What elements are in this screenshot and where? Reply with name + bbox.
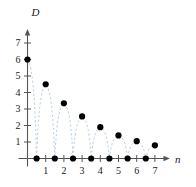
y-axis-tick-label: 4: [16, 87, 21, 98]
y-axis-tick-label: 7: [16, 37, 21, 48]
y-axis-label: D: [31, 6, 40, 18]
data-point: [43, 81, 49, 87]
data-point: [34, 155, 40, 161]
x-axis-tick-label: 7: [152, 165, 157, 176]
data-point: [70, 155, 76, 161]
x-axis-label: n: [175, 153, 181, 165]
x-axis-arrowhead: [163, 156, 170, 161]
y-axis-tick-label: 1: [16, 136, 21, 147]
y-axis-arrowhead: [25, 29, 30, 36]
x-axis-tick-label: 2: [61, 165, 66, 176]
x-axis-tick-label: 3: [80, 165, 85, 176]
data-point: [88, 155, 94, 161]
data-point: [97, 124, 103, 130]
x-axis-tick-label: 5: [116, 165, 121, 176]
x-axis-tick-label: 4: [98, 165, 103, 176]
data-point: [24, 56, 30, 62]
y-axis-tick-label: 2: [16, 120, 21, 131]
data-point: [152, 142, 158, 148]
data-point: [106, 155, 112, 161]
y-axis-tick-label: 3: [16, 103, 21, 114]
data-point: [52, 155, 58, 161]
data-point: [115, 132, 121, 138]
data-point: [79, 113, 85, 119]
data-point: [61, 100, 67, 106]
data-point: [134, 138, 140, 144]
data-point: [143, 155, 149, 161]
y-axis-tick-label: 6: [16, 54, 21, 65]
plot-canvas: 12345671234567Dn: [0, 0, 196, 187]
y-axis-tick-label: 5: [16, 70, 21, 81]
chart-figure: 12345671234567Dn: [0, 0, 196, 187]
x-axis-tick-label: 6: [134, 165, 139, 176]
data-point: [125, 155, 131, 161]
x-axis-tick-label: 1: [43, 165, 48, 176]
